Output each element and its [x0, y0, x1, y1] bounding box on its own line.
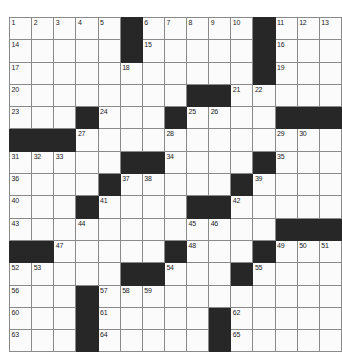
crossword-cell[interactable] — [54, 196, 76, 218]
crossword-cell[interactable] — [319, 174, 341, 196]
crossword-cell[interactable] — [275, 285, 297, 307]
crossword-cell[interactable] — [32, 40, 54, 62]
crossword-cell[interactable] — [297, 151, 319, 173]
crossword-cell[interactable] — [209, 151, 231, 173]
crossword-cell[interactable] — [98, 218, 120, 240]
crossword-cell[interactable]: 57 — [98, 285, 120, 307]
crossword-cell[interactable] — [253, 285, 275, 307]
crossword-cell[interactable] — [297, 330, 319, 352]
crossword-cell[interactable] — [209, 285, 231, 307]
crossword-cell[interactable]: 11 — [275, 18, 297, 40]
crossword-cell[interactable] — [297, 40, 319, 62]
crossword-cell[interactable] — [54, 62, 76, 84]
crossword-cell[interactable] — [297, 84, 319, 106]
crossword-cell[interactable]: 41 — [98, 196, 120, 218]
crossword-cell[interactable] — [120, 330, 142, 352]
crossword-cell[interactable] — [54, 107, 76, 129]
crossword-cell[interactable]: 2 — [32, 18, 54, 40]
crossword-cell[interactable]: 8 — [187, 18, 209, 40]
crossword-cell[interactable] — [253, 129, 275, 151]
crossword-cell[interactable]: 24 — [98, 107, 120, 129]
crossword-cell[interactable] — [98, 129, 120, 151]
crossword-cell[interactable]: 29 — [275, 129, 297, 151]
crossword-cell[interactable] — [54, 218, 76, 240]
crossword-cell[interactable] — [120, 107, 142, 129]
crossword-cell[interactable]: 65 — [231, 330, 253, 352]
crossword-cell[interactable] — [142, 62, 164, 84]
crossword-cell[interactable] — [164, 196, 186, 218]
crossword-cell[interactable]: 58 — [120, 285, 142, 307]
crossword-cell[interactable] — [164, 174, 186, 196]
crossword-cell[interactable] — [297, 62, 319, 84]
crossword-cell[interactable] — [231, 40, 253, 62]
crossword-cell[interactable] — [209, 240, 231, 262]
crossword-cell[interactable] — [54, 307, 76, 329]
crossword-cell[interactable] — [76, 62, 98, 84]
crossword-cell[interactable] — [275, 330, 297, 352]
crossword-cell[interactable] — [297, 263, 319, 285]
crossword-cell[interactable]: 35 — [275, 151, 297, 173]
crossword-cell[interactable] — [209, 129, 231, 151]
crossword-cell[interactable] — [297, 174, 319, 196]
crossword-cell[interactable] — [98, 263, 120, 285]
crossword-cell[interactable] — [54, 84, 76, 106]
crossword-cell[interactable] — [319, 307, 341, 329]
crossword-cell[interactable] — [253, 218, 275, 240]
crossword-cell[interactable]: 43 — [10, 218, 32, 240]
crossword-cell[interactable] — [164, 40, 186, 62]
crossword-cell[interactable]: 54 — [164, 263, 186, 285]
crossword-cell[interactable] — [142, 84, 164, 106]
crossword-cell[interactable] — [120, 196, 142, 218]
crossword-cell[interactable]: 28 — [164, 129, 186, 151]
crossword-cell[interactable] — [231, 218, 253, 240]
crossword-cell[interactable]: 30 — [297, 129, 319, 151]
crossword-cell[interactable]: 23 — [10, 107, 32, 129]
crossword-cell[interactable]: 7 — [164, 18, 186, 40]
crossword-cell[interactable] — [187, 151, 209, 173]
crossword-cell[interactable] — [209, 174, 231, 196]
crossword-cell[interactable]: 63 — [10, 330, 32, 352]
crossword-cell[interactable]: 48 — [187, 240, 209, 262]
crossword-cell[interactable] — [54, 285, 76, 307]
crossword-cell[interactable] — [98, 151, 120, 173]
crossword-cell[interactable] — [32, 84, 54, 106]
crossword-cell[interactable] — [32, 218, 54, 240]
crossword-cell[interactable]: 42 — [231, 196, 253, 218]
crossword-cell[interactable] — [319, 129, 341, 151]
crossword-cell[interactable] — [275, 174, 297, 196]
crossword-cell[interactable] — [297, 307, 319, 329]
crossword-cell[interactable] — [120, 240, 142, 262]
crossword-cell[interactable]: 53 — [32, 263, 54, 285]
crossword-cell[interactable] — [187, 307, 209, 329]
crossword-cell[interactable]: 12 — [297, 18, 319, 40]
crossword-cell[interactable] — [319, 285, 341, 307]
crossword-cell[interactable] — [187, 263, 209, 285]
crossword-cell[interactable] — [76, 240, 98, 262]
crossword-cell[interactable] — [98, 84, 120, 106]
crossword-cell[interactable] — [209, 263, 231, 285]
crossword-cell[interactable] — [187, 40, 209, 62]
crossword-cell[interactable]: 40 — [10, 196, 32, 218]
crossword-cell[interactable]: 51 — [319, 240, 341, 262]
crossword-cell[interactable] — [98, 40, 120, 62]
crossword-cell[interactable]: 31 — [10, 151, 32, 173]
crossword-cell[interactable]: 62 — [231, 307, 253, 329]
crossword-cell[interactable]: 33 — [54, 151, 76, 173]
crossword-cell[interactable] — [209, 62, 231, 84]
crossword-cell[interactable] — [32, 285, 54, 307]
crossword-grid[interactable]: 1234567891011121314151617181920212223242… — [9, 17, 342, 352]
crossword-cell[interactable] — [76, 84, 98, 106]
crossword-cell[interactable] — [231, 151, 253, 173]
crossword-cell[interactable] — [54, 330, 76, 352]
crossword-cell[interactable]: 21 — [231, 84, 253, 106]
crossword-cell[interactable] — [253, 196, 275, 218]
crossword-cell[interactable]: 32 — [32, 151, 54, 173]
crossword-cell[interactable]: 13 — [319, 18, 341, 40]
crossword-cell[interactable] — [231, 285, 253, 307]
crossword-cell[interactable] — [319, 84, 341, 106]
crossword-cell[interactable]: 16 — [275, 40, 297, 62]
crossword-cell[interactable]: 55 — [253, 263, 275, 285]
crossword-cell[interactable]: 14 — [10, 40, 32, 62]
crossword-cell[interactable]: 45 — [187, 218, 209, 240]
crossword-cell[interactable]: 34 — [164, 151, 186, 173]
